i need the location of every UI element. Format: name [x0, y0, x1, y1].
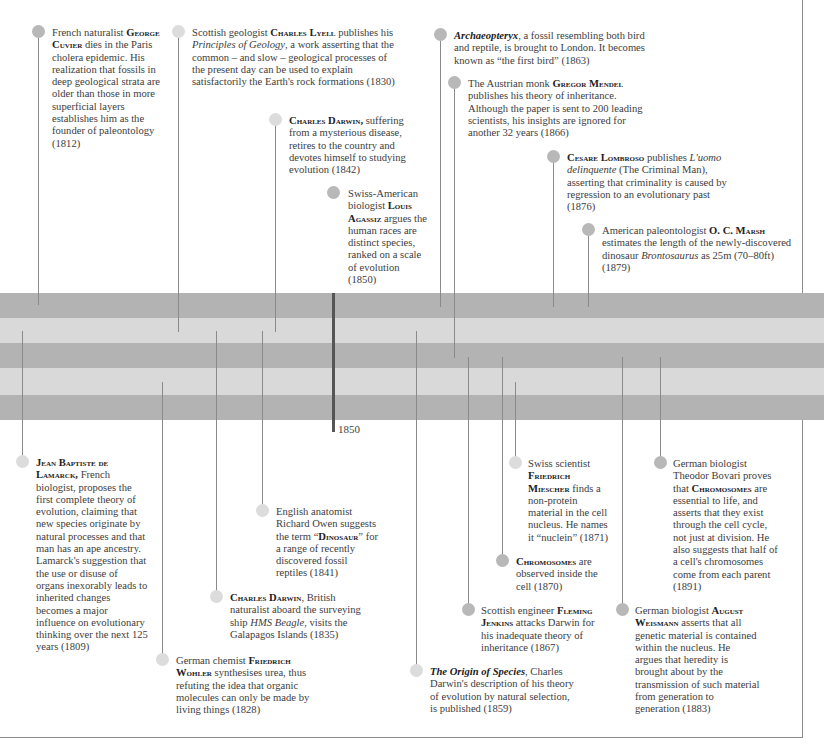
- event-stem: [216, 331, 217, 596]
- event-stem: [454, 83, 455, 358]
- event-dot-icon: [434, 28, 447, 41]
- event-dot-icon: [509, 456, 522, 469]
- frame-right-border: [802, 0, 803, 293]
- event-dot-icon: [172, 25, 185, 38]
- event-stem: [22, 331, 23, 461]
- event-stem: [553, 157, 554, 307]
- event-dot-icon: [156, 653, 169, 666]
- band-stripe-light: [0, 318, 824, 343]
- event-chromosomes-1870: Chromosomes are observed inside the cell…: [516, 556, 601, 593]
- event-stem: [162, 382, 163, 660]
- year-marker-1850: [332, 293, 335, 432]
- event-lamarck: Jean Baptiste de Lamarck, French biologi…: [36, 457, 148, 654]
- event-stem: [440, 35, 441, 307]
- event-dot-icon: [269, 113, 282, 126]
- event-lyell: Scottish geologist Charles Lyell publish…: [192, 27, 397, 88]
- event-stem: [468, 357, 469, 609]
- band-stripe-dark: [0, 343, 824, 368]
- event-dot-icon: [210, 590, 223, 603]
- frame-right-border-lower: [802, 420, 803, 738]
- event-jenkins: Scottish engineer Fleming Jenkins attack…: [481, 605, 606, 654]
- event-stem: [502, 357, 503, 560]
- event-archaeopteryx: Archaeopteryx, a fossil resembling both …: [454, 30, 649, 67]
- band-stripe-dark: [0, 395, 824, 420]
- event-stem: [38, 32, 39, 305]
- event-stem: [515, 382, 516, 462]
- band-stripe-dark: [0, 293, 824, 318]
- event-owen: English anatomist Richard Owen suggests …: [276, 506, 381, 580]
- event-dot-icon: [410, 664, 423, 677]
- event-dot-icon: [616, 603, 629, 616]
- event-darwin-1842: Charles Darwin, suffering from a mysteri…: [289, 115, 409, 176]
- event-bovari: German biologist Theodor Bovari proves t…: [673, 458, 783, 593]
- event-stem: [660, 357, 661, 462]
- event-stem: [178, 32, 179, 332]
- frame-bottom-border: [0, 737, 803, 738]
- event-dot-icon: [462, 603, 475, 616]
- event-dot-icon: [256, 504, 269, 517]
- event-dot-icon: [496, 554, 509, 567]
- event-dot-icon: [654, 456, 667, 469]
- event-origin-of-species: The Origin of Species, Charles Darwin's …: [430, 666, 575, 715]
- event-stem: [622, 357, 623, 610]
- event-marsh: American paleontologist O. C. Marsh esti…: [602, 225, 800, 274]
- event-dot-icon: [582, 223, 595, 236]
- event-cuvier: French naturalist George Cuvier dies in …: [52, 27, 164, 150]
- event-dot-icon: [448, 76, 461, 89]
- event-lombroso: Cesare Lombroso publishes L'uomo delinqu…: [567, 152, 732, 213]
- band-stripe-light: [0, 368, 824, 395]
- event-mendel: The Austrian monk Gregor Mendel publishe…: [468, 78, 653, 139]
- event-dot-icon: [547, 150, 560, 163]
- year-marker-label: 1850: [338, 423, 360, 435]
- event-dot-icon: [327, 186, 340, 199]
- event-miescher: Swiss scientist Friedrich Miescher finds…: [528, 458, 610, 544]
- event-stem: [416, 331, 417, 670]
- event-darwin-1835: Charles Darwin, British naturalist aboar…: [230, 592, 370, 641]
- event-stem: [588, 230, 589, 307]
- event-weismann: German biologist August Weismann asserts…: [635, 605, 760, 716]
- event-stem: [275, 120, 276, 332]
- event-dot-icon: [16, 455, 29, 468]
- event-stem: [262, 331, 263, 511]
- event-agassiz: Swiss-American biologist Louis Agassiz a…: [348, 188, 430, 286]
- event-dot-icon: [32, 25, 45, 38]
- event-wohler: German chemist Friedrich Wohler synthesi…: [176, 655, 311, 716]
